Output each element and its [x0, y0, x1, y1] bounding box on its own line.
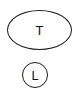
node-label: T: [36, 24, 44, 37]
ellipse-node-t: T: [7, 10, 72, 50]
circle-node-l: L: [22, 62, 48, 88]
node-label: L: [31, 69, 38, 82]
